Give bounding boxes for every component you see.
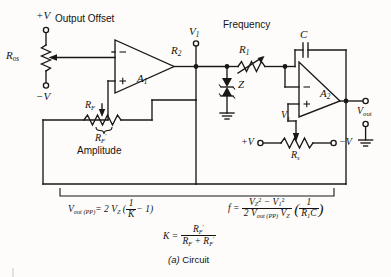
- equation-rule: [60, 188, 334, 196]
- label-capacitor: C: [300, 29, 307, 40]
- label-zener: Z: [238, 79, 244, 90]
- supply-neg-terminal-bottom: [331, 140, 336, 145]
- label-a2: A2: [320, 88, 330, 101]
- capacitor-feedback: [285, 43, 346, 101]
- resistor-ros-body: [42, 45, 51, 71]
- label-vs: Vs: [281, 110, 290, 121]
- label-supply-neg-bottom: −V: [339, 137, 352, 147]
- label-a1: A1: [137, 73, 147, 86]
- equation-vout-pp: Vout (PP)= 2 VZ (1K− 1): [68, 199, 153, 220]
- v1-zener-node: [193, 41, 235, 119]
- output-ground-terminal: [363, 121, 368, 126]
- equation-k-factor: K = RF′ RF + RF′: [163, 224, 216, 247]
- label-r1: R1: [239, 44, 249, 57]
- wiper-arrow-rf: [99, 109, 105, 117]
- supply-pos-terminal-top: [43, 27, 48, 32]
- opamp-a1: [108, 40, 196, 93]
- label-supply-pos-bottom: +V: [241, 137, 254, 147]
- figure-caption: (a) (a) CircuitCircuit: [168, 255, 209, 265]
- scan-artifact: [12, 268, 14, 277]
- equation-bracket: [60, 188, 334, 196]
- r1-variable-arrow-shaft: [238, 58, 262, 74]
- label-frequency: Frequency: [223, 20, 270, 30]
- label-rs: Rs: [291, 150, 300, 161]
- label-ros: Ros: [6, 50, 19, 63]
- supply-neg-terminal-top: [43, 83, 48, 88]
- label-v1: V1: [189, 26, 199, 39]
- vout-terminal: [363, 98, 368, 103]
- zener-lower-triangle: [222, 87, 232, 96]
- label-rf-prime: RF′: [95, 133, 107, 144]
- label-vout: Vout: [357, 106, 372, 117]
- label-amplitude: Amplitude: [77, 146, 121, 156]
- label-r2: R2: [171, 45, 181, 58]
- equation-frequency: f = VZ2 − V12 2 Vout (PP) VZ (1R1C): [228, 197, 324, 219]
- opamp-a2: [288, 62, 348, 121]
- zener-lower-bar-hook-right: [233, 96, 235, 99]
- zener-lower-bar-hook-left: [219, 94, 221, 97]
- label-supply-neg-top: −V: [36, 91, 50, 102]
- zener-upper-bar-hook-left: [219, 85, 221, 88]
- label-output-offset: Output Offset: [55, 14, 114, 24]
- vs-divider-network: [258, 121, 336, 148]
- output-offset-network: [42, 27, 116, 88]
- amplitude-feedback-network: [43, 67, 196, 185]
- label-supply-pos-top: +V: [36, 10, 50, 21]
- label-rf: RF: [85, 100, 95, 111]
- caption-text: Circuit: [182, 254, 209, 265]
- zener-upper-triangle: [222, 78, 232, 87]
- resistor-rs-body: [281, 138, 313, 148]
- supply-pos-terminal-bottom: [258, 140, 263, 145]
- v1-terminal: [193, 41, 198, 46]
- zener-upper-bar-hook-right: [233, 87, 235, 90]
- circuit-figure: +V Output Offset Ros −V A1 RF RF′ Amplit…: [0, 0, 391, 277]
